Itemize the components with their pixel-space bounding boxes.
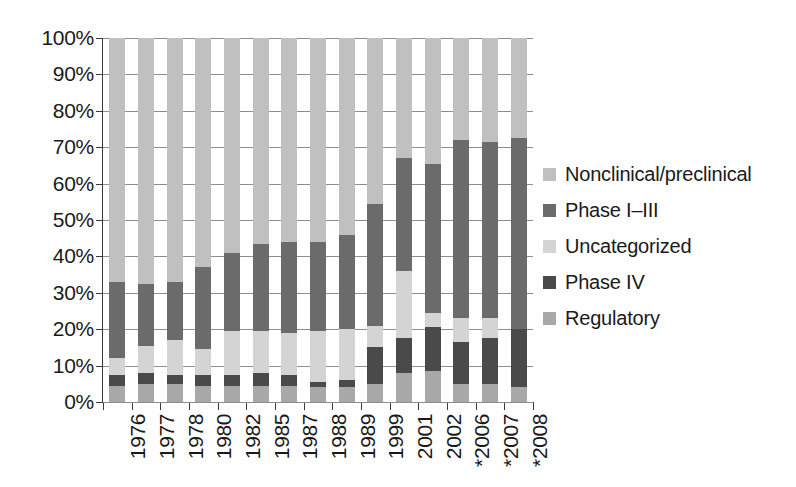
bar-segment [224, 375, 240, 386]
legend-item-label: Phase IV [565, 271, 645, 293]
y-axis-tick-label: 50% [32, 209, 94, 230]
bar-slot [218, 38, 247, 402]
bar-star2007[interactable] [482, 38, 498, 402]
bar-1977[interactable] [138, 38, 154, 402]
legend-item-label: Uncategorized [565, 235, 691, 257]
x-axis-tick-label: 1977 [156, 414, 178, 487]
bar-segment [482, 38, 498, 142]
bar-segment [396, 373, 412, 402]
bar-segment [310, 331, 326, 382]
x-tick-mark [533, 403, 534, 410]
bar-segment [425, 371, 441, 402]
bar-segment [167, 384, 183, 402]
y-tick-mark [96, 184, 102, 185]
y-tick-mark [96, 366, 102, 367]
bar-1987[interactable] [281, 38, 297, 402]
bar-1988[interactable] [310, 38, 326, 402]
bar-segment [310, 382, 326, 387]
y-tick-mark [96, 402, 102, 403]
bar-segment [253, 38, 269, 244]
bar-segment [281, 38, 297, 242]
bar-slot [103, 38, 132, 402]
bar-slot [332, 38, 361, 402]
bar-segment [482, 338, 498, 384]
bar-segment [310, 242, 326, 331]
bar-segment [453, 342, 469, 384]
y-tick-mark [96, 220, 102, 221]
x-tick-mark [189, 403, 190, 410]
bar-segment [339, 387, 355, 402]
bar-segment [339, 329, 355, 380]
bar-segment [195, 349, 211, 374]
bar-slot [361, 38, 390, 402]
legend-item[interactable]: Uncategorized [543, 228, 793, 264]
legend-item[interactable]: Phase IV [543, 264, 793, 300]
bar-slot [476, 38, 505, 402]
bar-segment [253, 244, 269, 331]
bar-segment [109, 358, 125, 374]
x-tick-mark [246, 403, 247, 410]
bar-segment [224, 38, 240, 253]
legend-item-label: Phase I–III [565, 199, 658, 221]
bar-slot [189, 38, 218, 402]
bar-1985[interactable] [253, 38, 269, 402]
x-axis-tick-label: 2001 [414, 414, 436, 487]
y-axis-tick-label: 80% [32, 100, 94, 121]
bar-1999[interactable] [367, 38, 383, 402]
bar-segment [224, 331, 240, 375]
y-tick-mark [96, 38, 102, 39]
x-tick-mark [332, 403, 333, 410]
bar-segment [195, 386, 211, 402]
bar-slot [447, 38, 476, 402]
legend-swatch-icon [543, 240, 556, 253]
bar-segment [167, 375, 183, 384]
bar-slot [275, 38, 304, 402]
bar-segment [138, 284, 154, 346]
bar-segment [281, 333, 297, 375]
bar-1976[interactable] [109, 38, 125, 402]
bar-1989[interactable] [339, 38, 355, 402]
bar-slot [390, 38, 419, 402]
x-tick-mark [418, 403, 419, 410]
bar-segment [453, 384, 469, 402]
bar-segment [253, 386, 269, 402]
bar-segment [138, 373, 154, 384]
chart-legend: Nonclinical/preclinicalPhase I–IIIUncate… [543, 156, 793, 336]
gridline-0 [103, 402, 533, 403]
bar-segment [396, 38, 412, 158]
x-axis-tick-label: 1985 [271, 414, 293, 487]
x-axis-tick-label: *2006 [471, 414, 493, 487]
bar-1982[interactable] [224, 38, 240, 402]
plot-area [103, 38, 533, 402]
x-axis-tick-label: 1982 [242, 414, 264, 487]
y-tick-mark [96, 74, 102, 75]
y-tick-mark [96, 256, 102, 257]
bar-star2006[interactable] [453, 38, 469, 402]
bar-segment [195, 38, 211, 267]
bar-star2008[interactable] [511, 38, 527, 402]
x-tick-mark [275, 403, 276, 410]
bar-2002[interactable] [425, 38, 441, 402]
bar-segment [367, 326, 383, 348]
legend-item[interactable]: Nonclinical/preclinical [543, 156, 793, 192]
legend-item[interactable]: Phase I–III [543, 192, 793, 228]
x-axis-tick-label: 2002 [443, 414, 465, 487]
bar-1978[interactable] [167, 38, 183, 402]
y-axis-labels: 100%90%80%70%60%50%40%30%20%10%0% [30, 0, 94, 487]
bar-segment [511, 38, 527, 138]
bar-slot [132, 38, 161, 402]
bar-segment [167, 38, 183, 282]
bar-segment [224, 253, 240, 331]
bar-segment [396, 158, 412, 271]
bar-segment [425, 313, 441, 328]
bar-segment [396, 338, 412, 373]
bar-segment [367, 347, 383, 383]
bar-segment [511, 329, 527, 387]
legend-item[interactable]: Regulatory [543, 300, 793, 336]
bar-segment [138, 38, 154, 284]
bar-segment [511, 387, 527, 402]
bar-2001[interactable] [396, 38, 412, 402]
bar-segment [511, 138, 527, 329]
bar-1980[interactable] [195, 38, 211, 402]
bar-segment [195, 375, 211, 386]
